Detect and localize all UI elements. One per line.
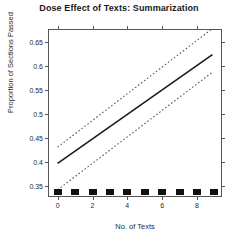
y-tick-mark: [45, 90, 49, 91]
y-tick-label: 0.6: [33, 63, 43, 70]
rug-marker: [54, 189, 62, 195]
y-tick-label: 0.45: [29, 135, 43, 142]
rug-marker: [106, 189, 114, 195]
plot-area: 0.350.40.450.50.550.60.65 02468: [48, 29, 222, 197]
y-tick-mark-right: [221, 42, 225, 43]
y-tick-mark: [45, 186, 49, 187]
x-axis-label: No. of Texts: [48, 222, 222, 231]
y-tick-label: 0.4: [33, 159, 43, 166]
y-tick-mark: [45, 162, 49, 163]
y-tick-mark: [45, 42, 49, 43]
x-tick-mark-top: [162, 26, 163, 30]
y-tick-mark: [45, 114, 49, 115]
x-tick-label: 4: [125, 202, 129, 209]
x-tick-label: 2: [91, 202, 95, 209]
y-tick-mark: [45, 66, 49, 67]
series-line-fit: [58, 55, 213, 164]
rug-marker: [158, 189, 166, 195]
y-tick-label: 0.65: [29, 39, 43, 46]
x-tick-mark: [197, 196, 198, 200]
y-tick-label: 0.35: [29, 183, 43, 190]
y-tick-label: 0.5: [33, 111, 43, 118]
x-tick-label: 6: [160, 202, 164, 209]
series-line-lower-confidence-band: [58, 72, 213, 190]
rug-marker: [71, 189, 79, 195]
x-tick-mark: [162, 196, 163, 200]
x-tick-mark: [93, 196, 94, 200]
x-tick-mark-top: [58, 26, 59, 30]
rug-marker: [193, 189, 201, 195]
rug-marker: [176, 189, 184, 195]
x-tick-label: 0: [56, 202, 60, 209]
y-tick-mark-right: [221, 186, 225, 187]
y-tick-mark-right: [221, 114, 225, 115]
x-tick-mark-top: [127, 26, 128, 30]
x-tick-mark: [127, 196, 128, 200]
rug-marker: [89, 189, 97, 195]
series-line-upper-confidence-band: [58, 30, 213, 147]
plot-lines: [49, 30, 221, 196]
x-tick-mark-top: [93, 26, 94, 30]
y-tick-mark: [45, 138, 49, 139]
rug-marker: [141, 189, 149, 195]
y-axis-label: Proportion of Sections Passed: [6, 12, 15, 113]
rug-marker: [123, 189, 131, 195]
y-tick-mark-right: [221, 66, 225, 67]
y-tick-mark-right: [221, 138, 225, 139]
rug-marker: [210, 189, 218, 195]
x-tick-mark-top: [197, 26, 198, 30]
chart-title: Dose Effect of Texts: Summarization: [0, 3, 238, 13]
y-tick-label: 0.55: [29, 87, 43, 94]
chart-figure: Dose Effect of Texts: Summarization Prop…: [0, 0, 238, 244]
x-tick-label: 8: [195, 202, 199, 209]
y-tick-mark-right: [221, 90, 225, 91]
x-tick-mark: [58, 196, 59, 200]
y-tick-mark-right: [221, 162, 225, 163]
